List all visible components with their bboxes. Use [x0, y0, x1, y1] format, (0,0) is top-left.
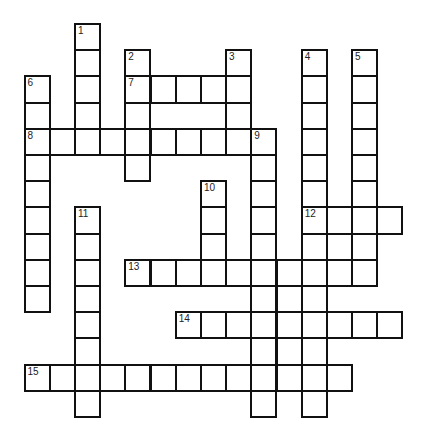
crossword-cell[interactable]	[276, 311, 303, 339]
crossword-cell[interactable]	[74, 49, 101, 77]
crossword-cell[interactable]: 8	[24, 128, 51, 156]
crossword-cell[interactable]	[175, 259, 202, 287]
crossword-cell[interactable]	[74, 364, 101, 392]
crossword-cell[interactable]	[74, 337, 101, 365]
crossword-cell[interactable]	[276, 285, 303, 313]
crossword-cell[interactable]	[24, 233, 51, 261]
crossword-cell[interactable]: 4	[301, 49, 328, 77]
crossword-cell[interactable]	[301, 180, 328, 208]
crossword-cell[interactable]	[74, 311, 101, 339]
crossword-cell[interactable]	[250, 364, 277, 392]
crossword-cell[interactable]	[150, 364, 177, 392]
crossword-cell[interactable]	[326, 259, 353, 287]
crossword-cell[interactable]	[150, 259, 177, 287]
crossword-cell[interactable]	[250, 154, 277, 182]
crossword-cell[interactable]	[301, 259, 328, 287]
crossword-cell[interactable]	[376, 206, 403, 234]
crossword-cell[interactable]	[326, 311, 353, 339]
crossword-cell[interactable]	[74, 102, 101, 130]
crossword-cell[interactable]	[99, 364, 126, 392]
crossword-cell[interactable]	[301, 75, 328, 103]
crossword-cell[interactable]	[99, 128, 126, 156]
crossword-cell[interactable]	[351, 154, 378, 182]
crossword-cell[interactable]	[200, 364, 227, 392]
crossword-cell[interactable]	[351, 102, 378, 130]
crossword-cell[interactable]: 2	[124, 49, 151, 77]
crossword-cell[interactable]	[301, 364, 328, 392]
crossword-cell[interactable]	[124, 128, 151, 156]
crossword-cell[interactable]	[301, 154, 328, 182]
crossword-cell[interactable]	[276, 337, 303, 365]
crossword-cell[interactable]	[225, 364, 252, 392]
crossword-cell[interactable]	[250, 285, 277, 313]
crossword-cell[interactable]	[376, 311, 403, 339]
crossword-cell[interactable]	[150, 75, 177, 103]
crossword-cell[interactable]	[301, 311, 328, 339]
crossword-cell[interactable]: 3	[225, 49, 252, 77]
crossword-cell[interactable]	[326, 364, 353, 392]
crossword-cell[interactable]: 5	[351, 49, 378, 77]
crossword-cell[interactable]: 15	[24, 364, 51, 392]
crossword-cell[interactable]	[351, 311, 378, 339]
crossword-cell[interactable]	[124, 154, 151, 182]
crossword-cell[interactable]	[250, 390, 277, 418]
crossword-cell[interactable]	[250, 259, 277, 287]
crossword-cell[interactable]	[24, 206, 51, 234]
crossword-cell[interactable]	[74, 390, 101, 418]
crossword-cell[interactable]	[74, 75, 101, 103]
crossword-cell[interactable]	[200, 128, 227, 156]
crossword-cell[interactable]: 10	[200, 180, 227, 208]
crossword-cell[interactable]	[200, 233, 227, 261]
crossword-cell[interactable]	[250, 206, 277, 234]
crossword-cell[interactable]	[225, 311, 252, 339]
crossword-cell[interactable]	[351, 233, 378, 261]
crossword-cell[interactable]	[24, 285, 51, 313]
crossword-cell[interactable]	[49, 128, 76, 156]
crossword-cell[interactable]	[276, 364, 303, 392]
crossword-cell[interactable]	[200, 259, 227, 287]
crossword-cell[interactable]	[124, 364, 151, 392]
crossword-cell[interactable]	[175, 128, 202, 156]
crossword-cell[interactable]	[351, 206, 378, 234]
crossword-cell[interactable]	[200, 75, 227, 103]
crossword-cell[interactable]	[351, 180, 378, 208]
crossword-cell[interactable]	[74, 259, 101, 287]
crossword-cell[interactable]	[200, 206, 227, 234]
crossword-cell[interactable]: 6	[24, 75, 51, 103]
crossword-cell[interactable]	[24, 154, 51, 182]
crossword-cell[interactable]	[150, 128, 177, 156]
crossword-cell[interactable]	[250, 337, 277, 365]
crossword-cell[interactable]: 9	[250, 128, 277, 156]
crossword-cell[interactable]	[250, 180, 277, 208]
crossword-cell[interactable]	[49, 364, 76, 392]
crossword-cell[interactable]	[250, 233, 277, 261]
crossword-cell[interactable]	[124, 102, 151, 130]
crossword-cell[interactable]	[24, 259, 51, 287]
crossword-cell[interactable]	[175, 364, 202, 392]
crossword-cell[interactable]	[351, 259, 378, 287]
crossword-cell[interactable]: 13	[124, 259, 151, 287]
crossword-cell[interactable]	[74, 233, 101, 261]
crossword-cell[interactable]	[301, 128, 328, 156]
crossword-cell[interactable]	[351, 75, 378, 103]
crossword-cell[interactable]: 12	[301, 206, 328, 234]
crossword-cell[interactable]	[225, 128, 252, 156]
crossword-cell[interactable]	[24, 102, 51, 130]
crossword-cell[interactable]	[225, 102, 252, 130]
crossword-cell[interactable]	[175, 75, 202, 103]
crossword-cell[interactable]	[24, 180, 51, 208]
crossword-cell[interactable]	[301, 390, 328, 418]
crossword-cell[interactable]	[351, 128, 378, 156]
crossword-cell[interactable]	[225, 75, 252, 103]
crossword-cell[interactable]	[200, 311, 227, 339]
crossword-cell[interactable]: 7	[124, 75, 151, 103]
crossword-cell[interactable]	[74, 128, 101, 156]
crossword-cell[interactable]	[74, 285, 101, 313]
crossword-cell[interactable]	[250, 311, 277, 339]
crossword-cell[interactable]: 1	[74, 23, 101, 51]
crossword-cell[interactable]	[326, 233, 353, 261]
crossword-cell[interactable]	[276, 259, 303, 287]
crossword-cell[interactable]	[301, 285, 328, 313]
crossword-cell[interactable]	[301, 337, 328, 365]
crossword-cell[interactable]: 11	[74, 206, 101, 234]
